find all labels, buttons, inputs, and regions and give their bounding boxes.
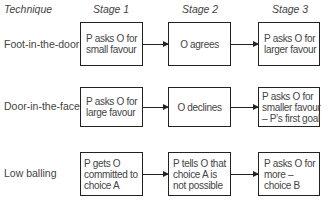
header-stage-1: Stage 1 bbox=[93, 3, 129, 15]
box-line: P asks O for bbox=[262, 91, 316, 102]
arrow-icon bbox=[231, 44, 258, 45]
box-line: not possible bbox=[173, 180, 226, 191]
box-line: P tells O that bbox=[173, 158, 226, 169]
row3-stage2-box: P tells O that choice A is not possible bbox=[168, 152, 231, 196]
row2-stage1-box: P asks O for large favour bbox=[80, 87, 143, 127]
box-line: large favour bbox=[86, 107, 137, 118]
header-stage-2: Stage 2 bbox=[182, 3, 218, 15]
box-line: smaller favour bbox=[262, 102, 316, 113]
box-line: P asks O for bbox=[86, 33, 137, 44]
box-line: more – bbox=[264, 169, 314, 180]
header-technique: Technique bbox=[4, 3, 52, 15]
box-line: committed to bbox=[84, 169, 139, 180]
technique-low-balling: Low balling bbox=[4, 167, 57, 179]
arrow-icon bbox=[143, 174, 168, 175]
row3-stage1-box: P gets O committed to choice A bbox=[80, 152, 143, 196]
box-line: choice B bbox=[264, 180, 314, 191]
box-line: small favour bbox=[86, 44, 137, 55]
box-line: P asks O for bbox=[264, 158, 314, 169]
box-line: O agrees bbox=[180, 39, 219, 50]
arrow-icon bbox=[231, 107, 258, 108]
box-line: larger favour bbox=[264, 44, 314, 55]
technique-door-in-the-face: Door-in-the-face bbox=[4, 100, 80, 112]
box-line: O declines bbox=[177, 102, 221, 113]
box-line: choice A bbox=[84, 180, 139, 191]
row2-stage3-box: P asks O for smaller favour – P’s first … bbox=[258, 87, 320, 127]
arrow-icon bbox=[143, 44, 168, 45]
box-line: choice A is bbox=[173, 169, 226, 180]
row1-stage3-box: P asks O for larger favour bbox=[258, 22, 320, 66]
box-line: P asks O for bbox=[86, 96, 137, 107]
arrow-icon bbox=[231, 174, 258, 175]
arrow-icon bbox=[143, 107, 168, 108]
row1-stage1-box: P asks O for small favour bbox=[80, 22, 143, 66]
row3-stage3-box: P asks O for more – choice B bbox=[258, 152, 320, 196]
row2-stage2-box: O declines bbox=[168, 87, 231, 127]
box-line: P asks O for bbox=[264, 33, 314, 44]
technique-foot-in-the-door: Foot-in-the-door bbox=[4, 38, 79, 50]
box-line: P gets O bbox=[84, 158, 139, 169]
header-stage-3: Stage 3 bbox=[272, 3, 308, 15]
row1-stage2-box: O agrees bbox=[168, 22, 231, 66]
box-line: – P’s first goal bbox=[262, 113, 316, 124]
